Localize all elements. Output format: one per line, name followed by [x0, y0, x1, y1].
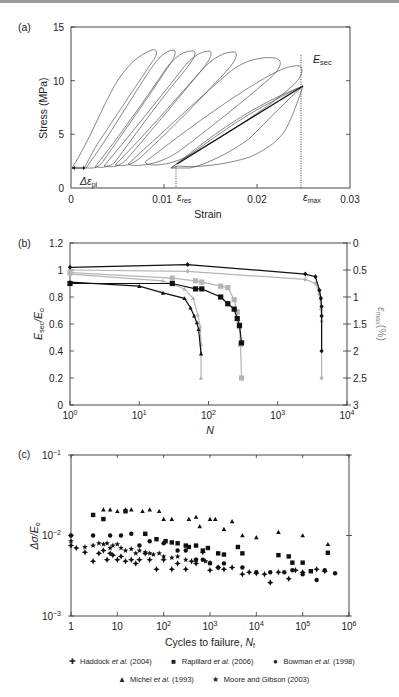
plus4-marker — [285, 576, 291, 582]
panel-b-axes-box — [70, 243, 347, 405]
triangle-marker — [196, 312, 200, 316]
panel-a-y-ticks: 15 10 5 0 — [53, 22, 350, 194]
plus4-marker — [68, 542, 74, 548]
diamond-marker — [186, 269, 190, 274]
y-tick: 0 — [57, 400, 63, 411]
square-marker-icon: ■ — [170, 657, 178, 666]
triangle-marker — [254, 535, 259, 539]
triangle-marker — [194, 515, 199, 519]
star-marker-icon: ★ — [212, 675, 220, 684]
plus4-marker — [153, 566, 159, 572]
circle-marker — [129, 532, 133, 536]
square-marker — [225, 285, 230, 290]
esec-label: Esec — [313, 53, 332, 67]
diamond-marker — [313, 274, 317, 279]
triangle-marker — [213, 517, 218, 521]
legend-item-moore-gibson: ★ Moore and Gibson (2003) — [212, 675, 309, 684]
square-marker — [218, 294, 223, 299]
y-tick: 10−2 — [42, 529, 61, 541]
triangle-marker — [199, 352, 203, 356]
legend-item-bowman: ● Bowman et al. (1998) — [271, 657, 354, 666]
x-tick: 102 — [201, 409, 216, 421]
x-tick-0.01: 0.01 — [152, 194, 172, 205]
x-tick: 102 — [156, 620, 171, 632]
plus4-marker — [82, 549, 88, 555]
diamond-marker — [68, 265, 72, 270]
star-marker — [123, 548, 129, 553]
triangle-marker — [192, 314, 196, 318]
triangle-marker — [161, 517, 166, 521]
y-right-tick: 0 — [353, 238, 359, 249]
circle-marker — [69, 533, 73, 537]
legend-item-michel: ▲ Michel et al. (1993) — [118, 675, 194, 684]
square-marker — [143, 532, 147, 536]
x-tick: 104 — [339, 409, 354, 421]
panel-b-series — [67, 262, 323, 381]
plus-marker-icon: ✚ — [68, 657, 76, 666]
circle-marker — [323, 568, 327, 572]
hysteresis-loops — [72, 50, 303, 168]
panel-b-y-right-label: εmax(%) — [375, 307, 388, 341]
series-line — [70, 284, 242, 343]
y-tick-5: 5 — [58, 129, 64, 140]
x-tick-0.03: 0.03 — [340, 194, 360, 205]
square-marker — [326, 551, 330, 555]
square-marker — [201, 548, 205, 552]
series-line — [70, 273, 242, 378]
circle-marker — [282, 570, 286, 574]
circle-marker — [268, 570, 272, 574]
triangle-marker — [240, 533, 245, 537]
square-marker — [206, 546, 210, 550]
y-tick: 1 — [57, 265, 63, 276]
diamond-marker — [303, 277, 307, 282]
square-marker — [199, 280, 204, 285]
triangle-marker — [276, 530, 281, 534]
circle-marker — [240, 565, 244, 569]
star-marker — [137, 548, 143, 553]
plus4-marker — [221, 566, 227, 572]
panel-b-ticks: 00.20.40.60.811.200.511.522.531001011021… — [49, 238, 367, 422]
x-tick-0: 0 — [68, 194, 74, 205]
star-marker — [175, 553, 181, 558]
circle-marker — [222, 561, 226, 565]
square-marker — [170, 540, 174, 544]
square-marker — [175, 541, 179, 545]
circle-marker — [254, 570, 258, 574]
square-marker — [240, 551, 244, 555]
circle-marker — [161, 541, 165, 545]
triangle-marker — [230, 519, 235, 523]
circle-marker — [290, 568, 294, 572]
square-marker — [225, 301, 230, 306]
eps-max-label: εmax — [303, 191, 321, 204]
circle-marker — [137, 543, 141, 547]
x-tick: 104 — [249, 620, 264, 632]
panel-a-label: (a) — [18, 21, 31, 33]
square-marker — [235, 316, 240, 321]
star-marker — [169, 555, 175, 560]
diamond-marker — [186, 262, 190, 267]
star-marker — [96, 540, 102, 545]
plus4-marker — [96, 550, 102, 556]
square-marker — [101, 517, 105, 521]
panel-c: (c) 10−110−210−3110102103104105106 Cycle… — [18, 448, 357, 649]
y-right-tick: 2 — [353, 346, 359, 357]
square-marker — [170, 276, 175, 281]
star-marker — [183, 557, 189, 562]
square-marker — [187, 545, 191, 549]
series-line — [70, 274, 201, 378]
circle-marker — [175, 548, 179, 552]
square-marker — [154, 537, 158, 541]
star-marker — [104, 540, 110, 545]
plus4-marker — [207, 567, 213, 573]
triangle-marker — [170, 517, 175, 521]
plus4-marker — [128, 557, 134, 563]
square-marker — [218, 284, 223, 289]
x-tick: 1 — [68, 621, 74, 632]
plus4-marker — [246, 569, 252, 575]
star-marker — [101, 541, 107, 546]
legend-item-rapillard: ■ Rapillard et al. (2006) — [170, 657, 254, 666]
delta-eps-pl-label: Δεpl — [79, 175, 98, 189]
panel-a-y-label: Stress (MPa) — [37, 77, 49, 138]
plus4-marker — [114, 557, 120, 563]
y-tick: 10−3 — [42, 610, 61, 622]
